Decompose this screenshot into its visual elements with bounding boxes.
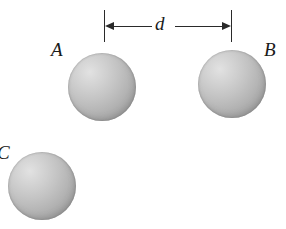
dimension-line-right-segment	[175, 26, 224, 27]
dimension-label-d: d	[155, 14, 165, 33]
arrow-right-icon	[222, 22, 231, 30]
arrow-left-icon	[105, 22, 114, 30]
sphere-b	[198, 50, 266, 118]
physics-sphere-diagram: d A B C	[0, 0, 286, 229]
sphere-c	[8, 152, 76, 220]
sphere-a	[68, 53, 136, 121]
sphere-label-a: A	[51, 40, 63, 59]
sphere-label-c: C	[0, 143, 10, 162]
dimension-tick-right	[231, 10, 232, 42]
sphere-label-b: B	[264, 40, 276, 59]
dimension-line-left-segment	[112, 26, 152, 27]
